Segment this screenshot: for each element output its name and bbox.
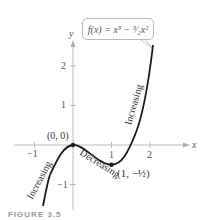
point-origin [71,143,75,147]
x-axis-arrow-icon [183,143,190,148]
function-label-callout: f(x) = x³ − ³⁄₂x² [82,18,154,40]
x-tick-label: −1 [27,149,38,159]
y-axis-arrow-icon [71,40,76,47]
x-tick-label: 1 [109,150,114,160]
y-tick-label: 2 [61,61,66,71]
point-origin-label: (0, 0) [47,131,69,141]
x-axis-label: x [192,140,196,150]
y-axis-label: y [69,29,73,39]
x-tick-label: 2 [147,150,152,160]
function-label: f(x) = x³ − ³⁄₂x² [88,24,148,35]
y-tick-label: −1 [57,180,68,190]
y-tick-label: 1 [61,100,66,110]
figure-caption: FIGURE 3.5 [8,210,62,219]
